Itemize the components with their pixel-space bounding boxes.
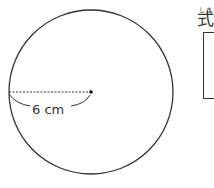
expression-answer-box[interactable] (203, 32, 214, 99)
expression-label: 式 (197, 10, 214, 28)
center-point (89, 90, 93, 94)
brace-right (71, 95, 90, 106)
circle-figure: 6 cm (0, 0, 214, 188)
brace-left (9, 94, 30, 106)
radius-label: 6 cm (32, 102, 64, 117)
